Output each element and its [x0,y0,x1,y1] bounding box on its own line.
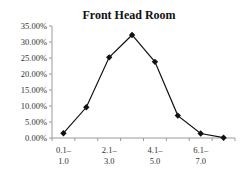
x-tick-label: 7.0 [195,156,206,166]
x-tick-label: 4.1– [148,145,164,155]
y-tick-label: 30.00% [21,37,47,47]
data-series [60,32,227,141]
chart-title: Front Head Room [82,8,175,22]
x-tick-label: 2.1– [102,145,118,155]
y-tick-label: 35.00% [21,21,47,31]
y-tick-label: 10.00% [21,101,47,111]
y-tick-label: 20.00% [21,69,47,79]
x-tick-label: 5.0 [150,156,161,166]
y-tick-label: 25.00% [21,53,47,63]
x-tick-label: 0.1– [56,145,72,155]
x-axis: 0.1–1.02.1–3.04.1–5.06.1–7.0 [52,138,235,166]
diamond-marker [220,134,226,140]
series-line [63,35,223,138]
y-tick-label: 0.00% [25,133,47,143]
x-tick-label: 1.0 [58,156,69,166]
x-tick-label: 6.1– [193,145,209,155]
x-tick-label: 3.0 [104,156,115,166]
y-axis: 0.00%5.00%10.00%15.00%20.00%25.00%30.00%… [21,21,52,143]
line-chart: Front Head Room 0.00%5.00%10.00%15.00%20… [0,0,247,177]
y-tick-label: 15.00% [21,85,47,95]
y-tick-label: 5.00% [25,117,47,127]
